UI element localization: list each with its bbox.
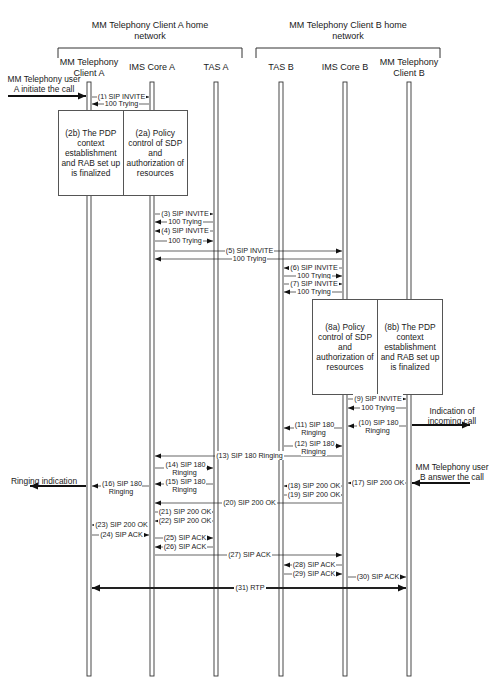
message-text: (30) SIP ACK [356, 572, 401, 581]
message-text: (27) SIP ACK [227, 550, 272, 559]
message-text: (23) SIP 200 OK [94, 520, 149, 529]
message-text: (28) SIP ACK [292, 560, 337, 569]
message-text: 100 Trying [296, 287, 332, 296]
message-text: (16) SIP 180Ringing [101, 479, 142, 496]
userA-init-label: MM Telephony userA initiate the call [0, 74, 89, 94]
message-text: (25) SIP ACK [163, 533, 208, 542]
arrowhead-icon [155, 500, 161, 505]
arrowhead-icon [92, 585, 100, 592]
message-text: (13) SIP 180 Ringing [215, 451, 284, 460]
network-label: MM Telephony Client A homenetwork [58, 20, 242, 42]
message-label-5r: 100 Trying [199, 255, 301, 263]
message-text: 100 Trying [232, 254, 268, 263]
process-note: (8a) Policy control of SDP and authoriza… [313, 300, 377, 394]
network-label: MM Telephony Client B homenetwork [256, 20, 440, 42]
arrowhead-icon [336, 552, 342, 557]
message-text: (31) RTP [234, 583, 265, 592]
message-text: (18) SIP 200 OK [287, 481, 342, 490]
process-note: (8b) The PDP context establishment and R… [377, 300, 442, 394]
box-8: (8a) Policy control of SDP and authoriza… [312, 299, 443, 395]
message-text: (26) SIP ACK [163, 542, 208, 551]
message-text: 100 Trying [104, 99, 140, 108]
message-text: (9) SIP INVITE [353, 394, 402, 403]
message-label-7r: 100 Trying [263, 288, 365, 296]
message-label-4: (4) SIP INVITE [134, 227, 236, 235]
message-text: (14) SIP 180Ringing [164, 460, 205, 477]
arrowhead-icon [155, 256, 161, 261]
message-label-13: (13) SIP 180 Ringing [199, 452, 301, 460]
box-2: (2b) The PDP context establishment and R… [58, 110, 188, 196]
process-note: (2a) Policy control of SDP and authoriza… [123, 111, 188, 195]
message-text: (19) SIP 200 OK [287, 490, 342, 499]
message-text: 100 Trying [360, 403, 396, 412]
lifeline-header-clientB: MM TelephonyClient B [369, 57, 449, 79]
message-label-20: (20) SIP 200 OK [199, 499, 301, 507]
ringing-indication-label: Ringing indication [0, 476, 89, 486]
message-label-23: (23) SIP 200 OK [71, 521, 173, 529]
message-label-30: (30) SIP ACK [327, 573, 429, 581]
process-note: (2b) The PDP context establishment and R… [59, 111, 123, 195]
arrowhead-icon [336, 248, 342, 253]
incoming-indication-label: Indication ofincoming call [407, 406, 493, 426]
message-label-27: (27) SIP ACK [199, 551, 301, 559]
message-text: (20) SIP 200 OK [222, 498, 277, 507]
message-label-1r: 100 Trying [71, 100, 173, 108]
message-label-14: (14) SIP 180Ringing [134, 461, 236, 478]
message-label-4r: 100 Trying [134, 237, 236, 245]
message-text: 100 Trying [167, 217, 203, 226]
message-text: 100 Trying [167, 236, 203, 245]
arrowhead-icon [398, 585, 406, 592]
arrowhead-icon [155, 453, 161, 458]
message-text: (11) SIP 180Ringing [294, 420, 335, 437]
message-label-11: (11) SIP 180Ringing [263, 421, 365, 438]
userB-answer-label: MM Telephony userB answer the call [407, 462, 493, 482]
message-text: (4) SIP INVITE [160, 226, 209, 235]
message-text: (21) SIP 200 OK [158, 507, 213, 516]
message-label-31: (31) RTP [199, 584, 301, 592]
